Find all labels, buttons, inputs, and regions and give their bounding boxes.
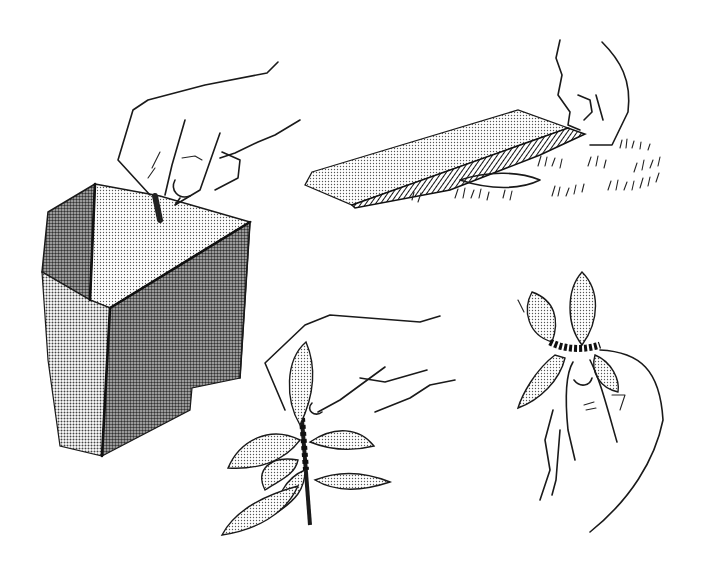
hand-icon bbox=[118, 62, 300, 205]
panel-leaf-cluster bbox=[518, 272, 663, 532]
illustration bbox=[0, 0, 701, 573]
leaves bbox=[222, 342, 390, 535]
leaves bbox=[518, 272, 618, 408]
insect-cluster bbox=[550, 342, 600, 348]
panel-stem bbox=[222, 315, 455, 535]
panel-box bbox=[42, 62, 300, 456]
panel-board bbox=[305, 40, 660, 208]
